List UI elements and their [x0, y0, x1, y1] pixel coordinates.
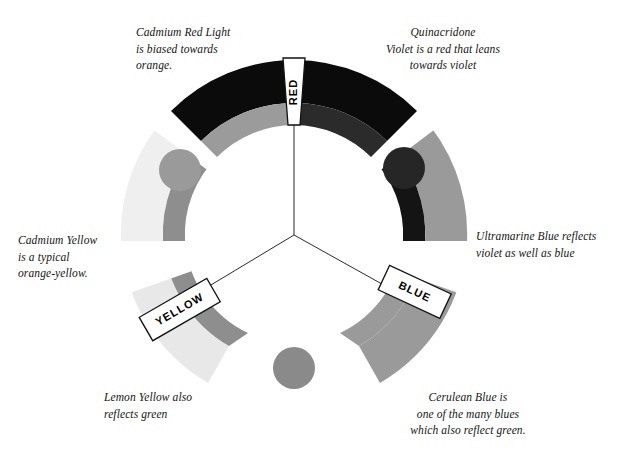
red-right-band: [294, 60, 417, 157]
orange-dot: [159, 149, 201, 191]
label-red-text: RED: [287, 79, 299, 106]
green-dot: [273, 347, 315, 389]
annotation-cadmium-yellow: Cadmium Yellow is a typical orange-yello…: [18, 232, 158, 282]
annotation-cerulean: Cerulean Blue is one of the many blues w…: [378, 389, 558, 439]
violet-dot: [383, 147, 425, 189]
annotation-cadmium-red: Cadmium Red Light is biased towards oran…: [136, 24, 296, 74]
annotation-quinacridone: Quinacridone Violet is a red that leans …: [348, 24, 538, 74]
color-wheel-diagram: RED YELLOW BLUE Cadmium Red Light is bia…: [0, 0, 624, 452]
annotation-ultramarine: Ultramarine Blue reflects violet as well…: [476, 228, 624, 261]
red-left-band: [171, 60, 294, 157]
blue-lower-band: [340, 241, 467, 383]
annotation-lemon-yellow: Lemon Yellow also reflects green: [104, 389, 264, 422]
